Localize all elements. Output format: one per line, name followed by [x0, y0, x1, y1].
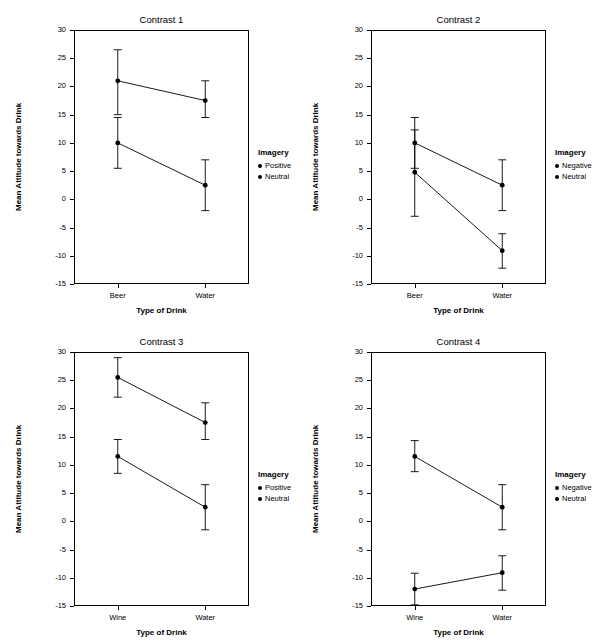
legend-marker-icon [555, 486, 559, 490]
series-line [415, 456, 503, 507]
legend-marker-icon [555, 497, 559, 501]
legend-item: Neutral [555, 493, 592, 504]
data-point [412, 454, 417, 459]
legend-item: Negative [555, 482, 592, 493]
legend-item-label: Negative [562, 483, 592, 492]
legend: ImageryNegativeNeutral [555, 470, 592, 504]
data-point [500, 570, 505, 575]
data-point [500, 505, 505, 510]
series-layer [0, 0, 597, 644]
legend-item-label: Neutral [562, 494, 586, 503]
panel-contrast-4: Contrast 4-15-10-5051015202530WineWaterM… [0, 0, 597, 644]
figure-grid: Contrast 1-15-10-5051015202530BeerWaterM… [0, 0, 597, 644]
legend-title: Imagery [555, 470, 592, 479]
data-point [412, 587, 417, 592]
series-line [415, 573, 503, 589]
